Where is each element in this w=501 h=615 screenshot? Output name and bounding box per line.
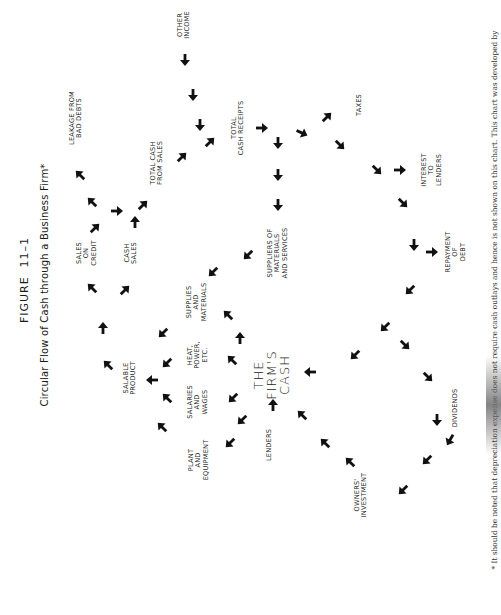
node-lenders: LENDERS <box>266 429 273 461</box>
node-total-cash-from-sales: TOTAL CASH FROM SALES <box>150 141 165 185</box>
arrow-down-left-icon <box>223 436 237 450</box>
arrow-up-right-icon <box>175 150 189 164</box>
arrow-left-icon <box>145 373 159 387</box>
figure-number: FIGURE 11–1 <box>19 237 31 323</box>
arrow-down-right-icon <box>396 196 410 210</box>
arrow-down-icon <box>271 168 285 182</box>
arrow-down-icon <box>407 238 421 252</box>
arrow-right-down-icon <box>295 126 309 140</box>
arrow-up-icon <box>233 331 247 345</box>
arrow-up-left-icon <box>343 455 357 469</box>
node-other-income: OTHER INCOME <box>177 11 192 39</box>
arrow-down-left-icon <box>420 453 434 467</box>
node-supplies-and-materials: SUPPLIES AND MATERIALS <box>186 283 208 322</box>
footnote: * It should be noted that depreciation e… <box>490 30 499 569</box>
arrow-down-left-icon <box>241 248 255 262</box>
scan-smudge <box>486 355 501 455</box>
node-plant-and-equipment: PLANT AND EQUIPMENT <box>188 440 210 481</box>
arrow-right-icon <box>425 245 439 259</box>
arrow-up-left-icon <box>101 358 115 372</box>
node-total-cash-receipts: TOTAL CASH RECEIPTS <box>231 101 246 156</box>
arrow-down-left-icon <box>160 356 174 370</box>
arrow-up-left-icon <box>225 353 239 367</box>
node-owners-investment: OWNERS' INVESTMENT <box>354 473 369 518</box>
arrow-up-left-icon <box>295 408 309 422</box>
arrow-up-right-icon <box>320 110 334 124</box>
node-heat-power: HEAT, POWER, ETC. <box>187 341 209 369</box>
arrow-up-right-icon <box>88 221 102 235</box>
arrow-down-icon <box>271 136 285 150</box>
arrow-up-left-icon <box>73 168 87 182</box>
arrow-down-left-icon <box>396 483 410 497</box>
arrow-right-icon <box>393 163 407 177</box>
arrow-down-icon <box>430 413 444 427</box>
arrow-down-right-icon <box>398 338 412 352</box>
arrow-down-left-icon <box>226 391 240 405</box>
arrow-down-left-icon <box>235 413 249 427</box>
node-interest-to-lenders: INTEREST TO LENDERS <box>421 153 443 187</box>
arrow-curve-icon <box>443 433 457 447</box>
arrow-up-left-icon <box>85 281 99 295</box>
arrow-down-right-icon <box>333 138 347 152</box>
arrow-down-icon <box>178 53 192 67</box>
node-firms-cash: THE FIRM'S CASH <box>252 350 291 399</box>
node-salaries-and-wages: SALARIES AND WAGES <box>187 385 209 419</box>
arrow-down-left-icon <box>403 283 417 297</box>
arrow-down-icon <box>193 118 207 132</box>
arrow-down-right-icon <box>370 163 384 177</box>
arrow-right-icon <box>110 204 124 218</box>
arrow-down-left-icon <box>378 320 392 334</box>
arrow-down-left-icon <box>206 265 220 279</box>
arrow-up-right-icon <box>118 283 132 297</box>
arrow-up-icon <box>96 321 110 335</box>
node-taxes: TAXES <box>356 94 363 116</box>
node-leakage-bad-debts: LEAKAGE FROM BAD DEBTS <box>69 91 84 145</box>
node-dividends: DIVIDENDS <box>452 389 459 428</box>
node-suppliers: SUPPLIERS OF MATERIALS AND SERVICES <box>267 228 289 279</box>
figure-title: Circular Flow of Cash through a Business… <box>39 163 50 406</box>
arrow-up-icon <box>266 398 280 412</box>
arrow-down-icon <box>271 198 285 212</box>
arrow-left-icon <box>303 365 317 379</box>
node-cash-sales: CASH SALES <box>124 242 139 264</box>
arrow-down-right-icon <box>421 370 435 384</box>
arrow-up-left-icon <box>85 195 99 209</box>
arrow-up-left-icon <box>155 420 169 434</box>
arrow-up-icon <box>128 215 142 229</box>
arrow-up-right-icon <box>203 135 217 149</box>
arrow-up-left-icon <box>318 436 332 450</box>
node-repayment-of-debt: REPAYMENT OF DEBT <box>445 232 467 273</box>
node-sales-on-credit: SALES ON CREDIT <box>76 240 98 266</box>
arrow-down-left-icon <box>348 348 362 362</box>
arrow-right-icon <box>255 121 269 135</box>
node-salable-product: SALABLE PRODUCT <box>123 361 138 395</box>
arrow-down-left-icon <box>156 326 170 340</box>
arrow-up-left-icon <box>221 308 235 322</box>
arrow-up-left-icon <box>160 391 174 405</box>
arrow-up-right-icon <box>136 198 150 212</box>
arrow-down-icon <box>186 88 200 102</box>
